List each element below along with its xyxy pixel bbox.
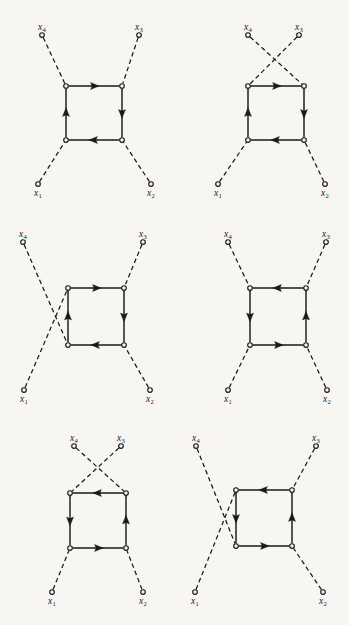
diagram-5-edge-bottom: [73, 545, 123, 552]
diagram-5-leg-x1: [53, 551, 69, 590]
diagram-4-leg-x4: [229, 245, 249, 286]
diagram-6-label-x1: x1: [190, 596, 199, 608]
diagram-3-edge-bottom-arrowhead: [91, 342, 100, 349]
diagram-1-label-x3: x3: [134, 22, 144, 34]
diagram-5-edge-right: [123, 496, 130, 545]
diagram-1-vertex-bottom-right: [120, 138, 125, 143]
diagram-5-leg-x3: [72, 448, 119, 491]
diagram-6-vertex-top-right: [290, 488, 295, 493]
diagram-3: x1x2x3x4: [18, 229, 154, 406]
diagram-4-edge-left-arrowhead: [247, 313, 254, 322]
diagram-1-endpoint-x2: [149, 182, 154, 187]
diagram-4-label-x1: x1: [223, 394, 232, 406]
diagram-6-edge-left: [233, 493, 240, 543]
diagram-3-label-x4: x4: [18, 229, 28, 241]
diagram-6-endpoint-x1: [193, 590, 198, 595]
diagram-5-edge-left-arrowhead: [67, 517, 74, 526]
diagram-1-vertex-top-left: [64, 84, 69, 89]
diagram-5-vertex-top-right: [124, 491, 129, 496]
diagram-2-edge-right-arrowhead: [301, 110, 308, 119]
diagram-1-edge-top-arrowhead: [91, 83, 100, 90]
diagram-4-edge-top-arrowhead: [273, 285, 282, 292]
diagram-6-leg-x3: [293, 448, 314, 487]
diagram-1-edge-bottom: [69, 137, 119, 144]
diagram-3-edge-bottom: [71, 342, 121, 349]
diagram-6-edge-top-arrowhead: [259, 487, 268, 494]
diagram-4-edge-left: [247, 291, 254, 342]
diagram-6-leg-x4: [197, 449, 235, 544]
diagram-6-vertex-bottom-right: [290, 544, 295, 549]
diagram-6-label-x2: x2: [318, 596, 327, 608]
diagram-6-label-x3: x3: [311, 433, 321, 445]
diagram-2-label-x1: x1: [213, 188, 222, 200]
diagram-6-leg-x1: [196, 493, 235, 590]
diagram-5-endpoint-x1: [50, 590, 55, 595]
diagram-5-leg-x2: [127, 551, 142, 590]
diagram-4-endpoint-x2: [325, 388, 330, 393]
diagram-2-edge-left-arrowhead: [245, 108, 252, 117]
diagram-4-vertex-bottom-right: [304, 343, 309, 348]
diagram-6-label-x4: x4: [191, 433, 201, 445]
diagram-1-leg-x4: [43, 38, 65, 84]
diagram-3-edge-left: [65, 291, 72, 342]
diagram-6-leg-x2: [294, 548, 322, 589]
diagram-4-leg-x1: [229, 348, 249, 388]
diagram-1-endpoint-x1: [36, 182, 41, 187]
diagram-4-edge-bottom-arrowhead: [275, 342, 284, 349]
diagram-2-leg-x2: [305, 143, 324, 182]
diagram-4-edge-bottom: [253, 342, 303, 349]
diagram-1-edge-left: [63, 89, 70, 137]
diagram-1-leg-x3: [123, 38, 138, 84]
diagram-4-vertex-top-right: [304, 286, 309, 291]
diagram-1-label-x1: x1: [33, 188, 42, 200]
diagram-1-edge-bottom-arrowhead: [89, 137, 98, 144]
diagram-4: x1x2x3x4: [223, 229, 331, 406]
diagram-5-edge-top: [73, 490, 123, 497]
diagram-3-label-x1: x1: [19, 394, 28, 406]
diagram-1-endpoint-x3: [137, 33, 142, 38]
diagram-2-endpoint-x4: [246, 33, 251, 38]
diagram-6-endpoint-x4: [194, 444, 199, 449]
diagram-3-leg-x3: [125, 245, 142, 286]
diagram-2-vertex-top-right: [302, 84, 307, 89]
diagram-2-vertex-top-left: [246, 84, 251, 89]
diagram-2-label-x2: x2: [320, 188, 329, 200]
diagram-6-edge-bottom: [239, 543, 289, 550]
diagram-5-edge-top-arrowhead: [93, 490, 102, 497]
diagram-5-endpoint-x4: [72, 444, 77, 449]
diagram-4-vertex-bottom-left: [248, 343, 253, 348]
diagram-6-edge-right: [289, 493, 296, 543]
diagram-6-vertex-bottom-left: [234, 544, 239, 549]
diagram-1-edge-left-arrowhead: [63, 108, 70, 117]
diagram-2-edge-left: [245, 89, 252, 137]
diagram-4-endpoint-x4: [226, 240, 231, 245]
diagram-5-label-x4: x4: [69, 433, 79, 445]
diagram-1-edge-top: [69, 83, 119, 90]
diagram-1-vertex-top-right: [120, 84, 125, 89]
diagram-2-edge-bottom: [251, 137, 301, 144]
diagram-1-edge-right: [119, 89, 126, 137]
diagram-1-vertex-bottom-left: [64, 138, 69, 143]
diagram-3-endpoint-x2: [148, 388, 153, 393]
diagram-4-edge-top: [253, 285, 303, 292]
diagram-5-label-x1: x1: [47, 596, 56, 608]
diagram-5-edge-bottom-arrowhead: [95, 545, 104, 552]
diagram-1-endpoint-x4: [40, 33, 45, 38]
diagram-5-edge-left: [67, 496, 74, 545]
diagram-5-edge-right-arrowhead: [123, 515, 130, 524]
diagram-1-label-x2: x2: [146, 188, 155, 200]
diagram-2-label-x3: x3: [294, 22, 304, 34]
diagram-5: x1x2x3x4: [47, 433, 147, 608]
diagram-3-edge-right: [121, 291, 128, 342]
diagram-1-edge-right-arrowhead: [119, 110, 126, 119]
diagram-3-leg-x1: [25, 291, 67, 388]
diagram-5-vertex-bottom-left: [68, 546, 73, 551]
diagram-3-edge-right-arrowhead: [121, 313, 128, 322]
diagram-4-edge-right-arrowhead: [303, 311, 310, 320]
diagram-2-edge-bottom-arrowhead: [271, 137, 280, 144]
diagram-2-label-x4: x4: [243, 22, 253, 34]
diagram-1: x1x2x3x4: [33, 22, 155, 200]
diagram-3-vertex-bottom-left: [66, 343, 71, 348]
diagram-3-edge-top-arrowhead: [93, 285, 102, 292]
diagram-3-leg-x4: [24, 245, 67, 343]
